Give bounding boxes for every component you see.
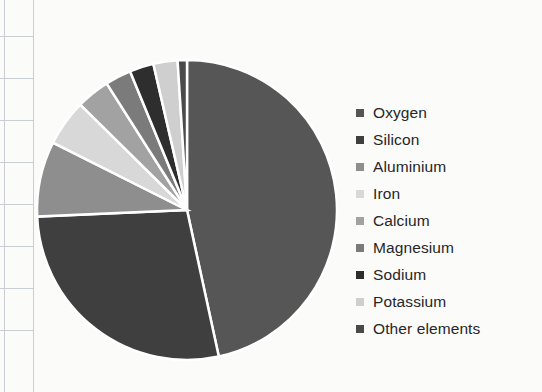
legend-swatch-icon	[356, 298, 364, 306]
legend-item-label: Potassium	[373, 294, 446, 310]
legend-item-silicon[interactable]: Silicon	[356, 129, 480, 151]
legend-item-label: Silicon	[373, 132, 419, 148]
legend-swatch-icon	[356, 109, 364, 117]
legend-item-oxygen[interactable]: Oxygen	[356, 102, 480, 124]
legend-item-label: Magnesium	[373, 240, 454, 256]
legend-swatch-icon	[356, 325, 364, 333]
legend-swatch-icon	[356, 217, 364, 225]
legend-swatch-icon	[356, 244, 364, 252]
legend-swatch-icon	[356, 190, 364, 198]
legend-item-iron[interactable]: Iron	[356, 183, 480, 205]
legend-item-magnesium[interactable]: Magnesium	[356, 237, 480, 259]
legend-item-other-elements[interactable]: Other elements	[356, 318, 480, 340]
pie-slice-group	[37, 60, 337, 360]
pie-slice-silicon[interactable]	[37, 210, 219, 360]
legend-item-sodium[interactable]: Sodium	[356, 264, 480, 286]
legend-item-label: Oxygen	[373, 105, 427, 121]
legend-item-label: Iron	[373, 186, 400, 202]
legend-swatch-icon	[356, 271, 364, 279]
legend-swatch-icon	[356, 136, 364, 144]
chart-legend: OxygenSiliconAluminiumIronCalciumMagnesi…	[356, 102, 480, 340]
pie-chart: OxygenSiliconAluminiumIronCalciumMagnesi…	[0, 0, 542, 392]
legend-item-aluminium[interactable]: Aluminium	[356, 156, 480, 178]
legend-item-label: Calcium	[373, 213, 430, 229]
legend-item-calcium[interactable]: Calcium	[356, 210, 480, 232]
legend-item-label: Sodium	[373, 267, 426, 283]
legend-item-potassium[interactable]: Potassium	[356, 291, 480, 313]
legend-item-label: Aluminium	[373, 159, 446, 175]
legend-item-label: Other elements	[373, 321, 480, 337]
legend-swatch-icon	[356, 163, 364, 171]
